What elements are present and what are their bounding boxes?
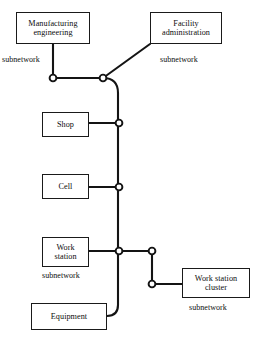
node-manufacturing-engineering[interactable]: Manufacturing engineering (16, 12, 90, 44)
caption-cluster-subnetwork: subnetwork (189, 303, 227, 312)
caption-facility-subnetwork: subnetwork (160, 55, 198, 64)
node-label-line2: engineering (28, 28, 77, 37)
junction-node-manufacturing (50, 75, 57, 82)
node-facility-administration[interactable]: Facility administration (150, 12, 222, 44)
link-main-trunk (103, 78, 118, 316)
node-shop[interactable]: Shop (42, 112, 89, 137)
link-facility-to-bus (103, 44, 150, 78)
node-label-line1: Shop (57, 120, 74, 129)
node-cell[interactable]: Cell (42, 174, 89, 199)
network-diagram: Manufacturing engineering Facility admin… (0, 0, 256, 338)
caption-work-station-subnetwork: subnetwork (42, 271, 80, 280)
junction-node-cluster-branch (149, 248, 156, 255)
junction-node-cell (116, 184, 123, 191)
node-label-line1: Facility (162, 19, 210, 28)
node-work-station[interactable]: Work station (42, 237, 89, 267)
node-label-line2: cluster (195, 283, 237, 292)
node-label-line1: Equipment (51, 312, 87, 321)
junction-node-cluster (149, 281, 156, 288)
junction-node-shop (116, 120, 123, 127)
node-label-line1: Cell (59, 182, 73, 191)
junction-node-work-station (116, 248, 123, 255)
node-label-line1: Work (54, 243, 76, 252)
junction-node-facility (100, 75, 107, 82)
node-equipment[interactable]: Equipment (31, 303, 107, 330)
node-label-line2: station (54, 252, 76, 261)
caption-manufacturing-subnetwork: subnetwork (2, 55, 40, 64)
node-label-line1: Work station (195, 274, 237, 283)
node-label-line1: Manufacturing (28, 19, 77, 28)
node-work-station-cluster[interactable]: Work station cluster (182, 268, 250, 298)
node-label-line2: administration (162, 28, 210, 37)
